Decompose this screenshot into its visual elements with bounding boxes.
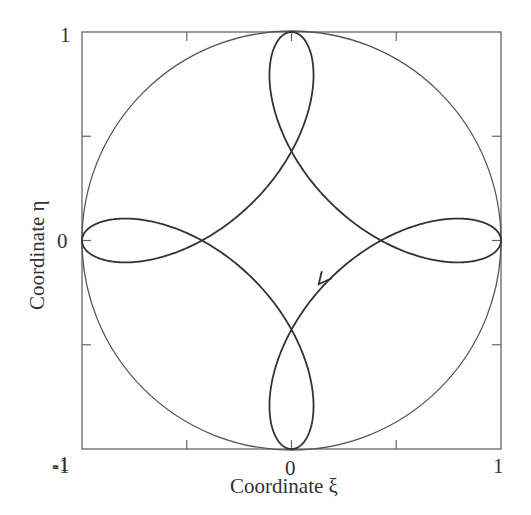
trajectory-curve	[82, 32, 501, 449]
x-tick-right: 1	[493, 456, 504, 477]
y-axis-label: Coordinate η	[27, 200, 48, 310]
x-axis-label: Coordinate ξ	[230, 476, 338, 497]
unit-circle	[82, 31, 501, 450]
x-tick-left: -1	[52, 456, 70, 477]
y-tick-top: 1	[60, 25, 71, 46]
axes-frame	[82, 32, 501, 449]
direction-arrow-icon	[319, 271, 332, 284]
axis-ticks	[82, 32, 501, 449]
y-tick-mid: 0	[57, 231, 68, 252]
plot-area	[0, 0, 531, 515]
